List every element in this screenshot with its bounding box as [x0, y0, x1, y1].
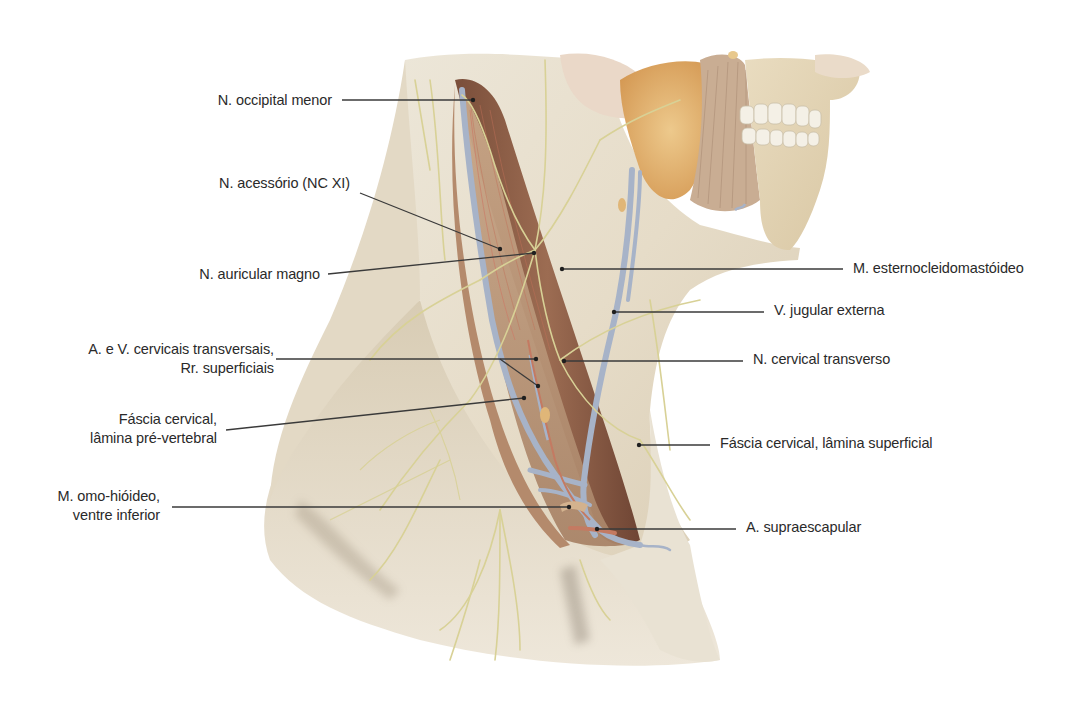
label-text: Fáscia cervical,: [90, 410, 217, 429]
label-text: M. omo-hióideo,: [58, 487, 160, 506]
label-n-acessorio: N. acessório (NC XI): [219, 174, 350, 193]
label-n-occipital-menor: N. occipital menor: [218, 91, 332, 110]
label-text: Fáscia cervical, lâmina superficial: [720, 434, 932, 453]
label-text: N. occipital menor: [218, 91, 332, 110]
label-text: A. supraescapular: [746, 518, 861, 537]
label-a-supraescapular: A. supraescapular: [746, 518, 861, 537]
label-text: A. e V. cervicais transversais,: [88, 340, 274, 359]
label-text: V. jugular externa: [774, 301, 885, 320]
label-m-omo-hioideo: M. omo-hióideo, ventre inferior: [58, 487, 160, 525]
label-m-esternocleidomastoideo: M. esternocleidomastóideo: [853, 259, 1024, 278]
label-fascia-cervical-superficial: Fáscia cervical, lâmina superficial: [720, 434, 932, 453]
lymph-node: [728, 51, 738, 59]
label-text: Rr. superficiais: [88, 359, 274, 378]
label-text: ventre inferior: [58, 506, 160, 525]
label-text: N. cervical transverso: [753, 350, 890, 369]
label-text: N. auricular magno: [199, 265, 320, 284]
label-text: M. esternocleidomastóideo: [853, 259, 1024, 278]
label-text: lâmina pré-vertebral: [90, 429, 217, 448]
label-fascia-cervical-pre-vertebral: Fáscia cervical, lâmina pré-vertebral: [90, 410, 217, 448]
label-v-jugular-externa: V. jugular externa: [774, 301, 885, 320]
mandible: [745, 58, 860, 250]
label-n-auricular-magno: N. auricular magno: [199, 265, 320, 284]
nose: [815, 54, 870, 78]
anatomy-figure: N. occipital menor N. acessório (NC XI) …: [0, 0, 1084, 715]
lymph-node: [618, 198, 626, 212]
label-n-cervical-transverso: N. cervical transverso: [753, 350, 890, 369]
label-text: N. acessório (NC XI): [219, 174, 350, 193]
lymph-node: [540, 407, 550, 423]
label-a-v-cervicais-transversais: A. e V. cervicais transversais, Rr. supe…: [88, 340, 274, 378]
